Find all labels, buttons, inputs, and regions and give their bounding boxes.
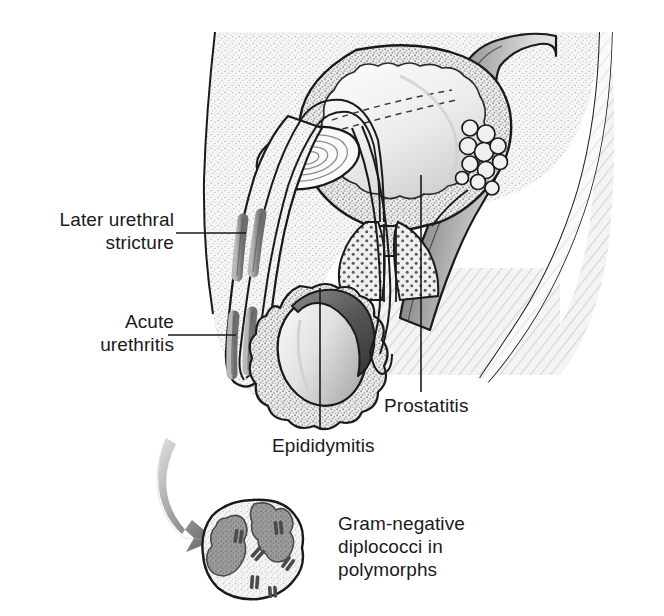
label-later-urethral-stricture: Later urethral stricture: [14, 208, 174, 254]
label-gram-negative-diplococci-caption: Gram-negative diplococci in polymorphs: [338, 512, 465, 581]
label-acute-urethritis: Acute urethritis: [24, 310, 174, 356]
anatomy-illustration: [0, 0, 664, 616]
label-epididymitis: Epididymitis: [272, 434, 375, 457]
polymorph-cell-inset: [202, 500, 303, 599]
label-prostatitis: Prostatitis: [384, 394, 469, 417]
figure-container: Later urethral stricture Acute urethriti…: [0, 0, 664, 616]
